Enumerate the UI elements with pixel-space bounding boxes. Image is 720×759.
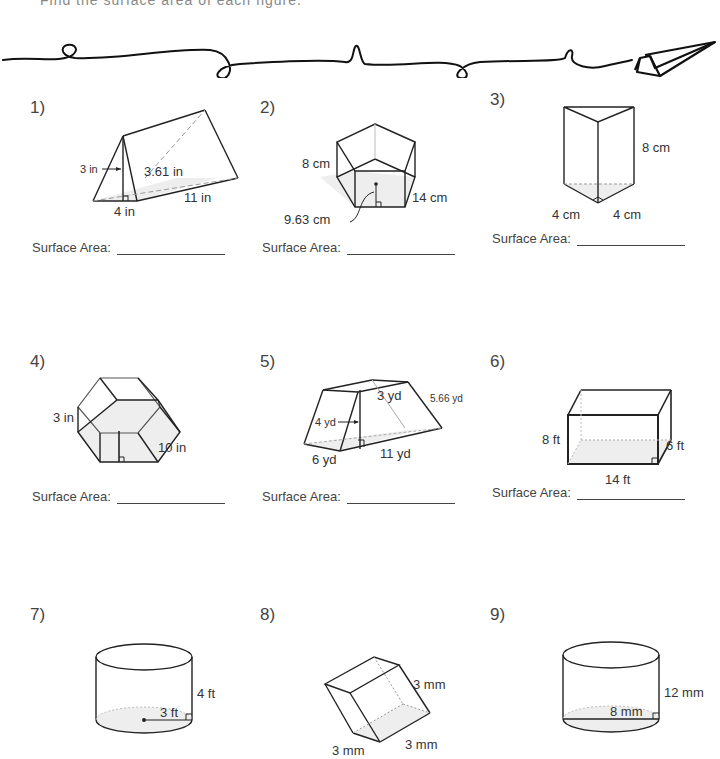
cylinder-figure: 4 ft 3 ft (20, 605, 250, 759)
svg-text:6 yd: 6 yd (312, 452, 337, 467)
surface-area-label: Surface Area: (32, 240, 111, 255)
svg-text:3 yd: 3 yd (377, 388, 402, 403)
surface-area-answer[interactable]: Surface Area: (492, 485, 685, 500)
svg-text:11 in: 11 in (184, 190, 211, 205)
svg-text:14 cm: 14 cm (412, 190, 447, 205)
answer-blank[interactable] (577, 487, 685, 500)
problem-2: 2) 8 cm 14 cm 9.63 cm Surface Area: (250, 98, 480, 318)
svg-text:4 yd: 4 yd (315, 416, 336, 428)
svg-text:3 mm: 3 mm (405, 737, 438, 752)
svg-text:3.61 in: 3.61 in (144, 164, 183, 179)
svg-text:8 mm: 8 mm (610, 704, 643, 719)
hexagonal-prism-figure: 3 in 10 in (20, 352, 250, 532)
instruction-text-cropped: Find the surface area of each figure. (40, 0, 302, 8)
rectangular-prism-figure: 8 ft 14 ft 6 ft (480, 352, 710, 532)
problem-9: 9) 12 mm 8 mm (480, 605, 710, 759)
answer-blank[interactable] (577, 233, 685, 246)
problem-5: 5) 4 yd 3 yd 5.66 yd 6 yd 11 yd Surface … (250, 352, 480, 572)
surface-area-answer[interactable]: Surface Area: (32, 240, 225, 255)
cylinder-figure: 12 mm 8 mm (480, 605, 710, 759)
svg-text:4 ft: 4 ft (197, 686, 215, 701)
problem-6: 6) 8 ft 14 ft 6 ft Surface Area: (480, 352, 710, 572)
answer-blank[interactable] (117, 491, 225, 504)
paper-airplane-icon (635, 42, 715, 76)
svg-text:4 in: 4 in (114, 204, 135, 219)
answer-blank[interactable] (347, 491, 455, 504)
svg-text:9.63 cm: 9.63 cm (284, 212, 330, 227)
surface-area-label: Surface Area: (492, 231, 571, 246)
surface-area-answer[interactable]: Surface Area: (492, 231, 685, 246)
svg-text:3 mm: 3 mm (413, 677, 446, 692)
svg-text:3 in: 3 in (80, 163, 98, 175)
problem-4: 4) 3 in 10 in Surface Area: (20, 352, 250, 572)
svg-text:4 cm: 4 cm (613, 207, 641, 222)
svg-text:8 cm: 8 cm (302, 156, 330, 171)
svg-text:3 mm: 3 mm (332, 743, 365, 758)
problem-8: 8) 3 mm 3 mm 3 mm (250, 605, 480, 759)
answer-blank[interactable] (117, 242, 225, 255)
surface-area-answer[interactable]: Surface Area: (262, 240, 455, 255)
cube-figure: 3 mm 3 mm 3 mm (250, 605, 480, 759)
svg-text:3 ft: 3 ft (160, 705, 178, 720)
svg-text:4 cm: 4 cm (552, 207, 580, 222)
svg-text:6 ft: 6 ft (666, 438, 684, 453)
surface-area-label: Surface Area: (262, 489, 341, 504)
problem-7: 7) 4 ft 3 ft (20, 605, 250, 759)
surface-area-answer[interactable]: Surface Area: (262, 489, 455, 504)
surface-area-label: Surface Area: (32, 489, 111, 504)
problem-3: 3) 8 cm 4 cm 4 cm Surface Area: (480, 90, 710, 310)
svg-text:12 mm: 12 mm (664, 685, 704, 700)
answer-blank[interactable] (347, 242, 455, 255)
problem-1: 1) 3 in 3.61 in 4 in 11 in Surface Area: (20, 98, 250, 318)
svg-text:8 cm: 8 cm (642, 140, 670, 155)
surface-area-answer[interactable]: Surface Area: (32, 489, 225, 504)
decorative-squiggle-divider (0, 18, 720, 78)
svg-text:3 in: 3 in (53, 410, 74, 425)
svg-text:5.66 yd: 5.66 yd (430, 393, 463, 404)
trapezoidal-prism-figure: 4 yd 3 yd 5.66 yd 6 yd 11 yd (250, 352, 480, 532)
svg-text:10 in: 10 in (158, 440, 186, 455)
surface-area-label: Surface Area: (492, 485, 571, 500)
surface-area-label: Surface Area: (262, 240, 341, 255)
svg-text:11 yd: 11 yd (380, 446, 411, 461)
svg-text:8 ft: 8 ft (542, 432, 560, 447)
